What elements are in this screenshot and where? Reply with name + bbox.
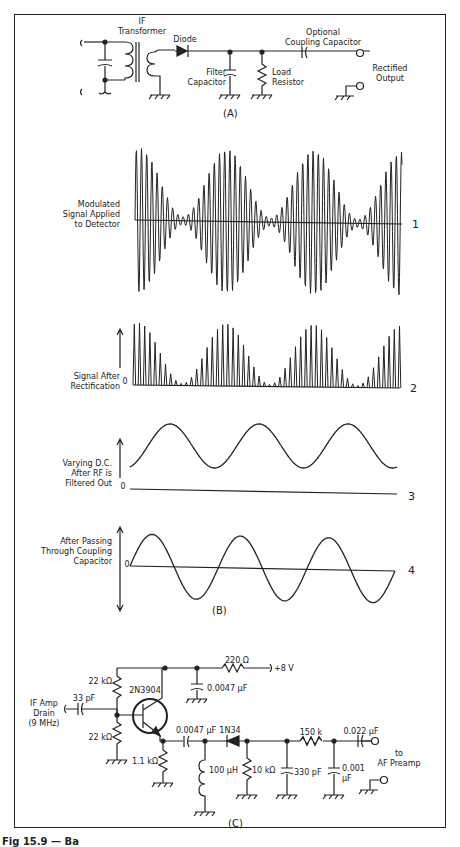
label-c-bypass: 0.0047 µF <box>207 684 257 694</box>
label-coupling-capacitor: Optional Coupling Capacitor <box>268 28 378 48</box>
label-waveform-3: Varying D.C. After RF is Filtered Out <box>12 459 112 489</box>
panel-b-caption: (B) <box>212 605 227 616</box>
waveform-2-number: 2 <box>410 382 417 395</box>
waveform-3-zero: 0 <box>118 482 128 492</box>
waveform-2-rectified <box>133 323 401 388</box>
waveform-3-number: 3 <box>408 490 415 503</box>
label-r-bottom: 22 kΩ <box>80 733 112 743</box>
label-waveform-4: After Passing Through Coupling Capacitor <box>12 537 112 567</box>
label-rectified-output: Rectified Output <box>365 64 415 84</box>
label-if-transformer: IF Transformer <box>112 17 172 37</box>
label-output: to AF Preamp <box>374 749 424 769</box>
label-load-resistor: Load Resistor <box>272 68 312 88</box>
label-diode: Diode <box>170 35 200 45</box>
waveform-4-ac <box>117 527 395 611</box>
label-c-out: 0.022 µF <box>336 727 386 737</box>
label-r-top: 22 kΩ <box>80 677 112 687</box>
figure-graphics <box>0 0 460 847</box>
label-inductor: 100 µH <box>209 766 245 776</box>
label-c-filter1: 330 pF <box>294 768 330 778</box>
label-r-filter: 150 k <box>298 728 324 738</box>
label-supply: +8 V <box>274 664 304 674</box>
waveform-4-number: 4 <box>408 564 415 577</box>
waveform-4-zero: 0 <box>122 560 132 570</box>
panel-c-caption: (C) <box>228 818 243 829</box>
label-waveform-1: Modulated Signal Applied to Detector <box>20 200 120 230</box>
label-c-in: 33 pF <box>72 694 96 704</box>
label-r-emitter: 1.1 kΩ <box>124 757 158 767</box>
waveform-2-zero: 0 <box>120 377 130 387</box>
label-r-supply: 220 Ω <box>222 656 252 666</box>
label-c-couple: 0.0047 µF <box>171 726 221 736</box>
label-transistor: 2N3904 <box>128 686 162 696</box>
label-r-load: 10 kΩ <box>252 766 286 776</box>
label-c-filter2: 0.001 µF <box>342 764 372 784</box>
label-diode-1n34: 1N34 <box>218 726 242 736</box>
label-filter-capacitor: Filter Capacitor <box>186 68 226 88</box>
waveform-1-number: 1 <box>412 218 419 231</box>
waveform-3-dc <box>117 424 397 494</box>
label-input: IF Amp Drain (9 MHz) <box>22 699 66 729</box>
figure-caption: Fig 15.9 — Ba <box>2 836 79 847</box>
label-waveform-2: Signal After Rectification <box>20 372 120 392</box>
panel-a-caption: (A) <box>223 108 238 119</box>
